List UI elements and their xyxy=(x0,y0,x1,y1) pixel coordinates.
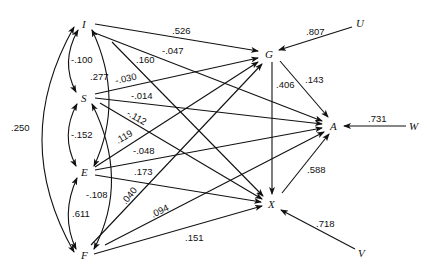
coef-I-X: .160 xyxy=(136,54,155,65)
coef-S-A: -.014 xyxy=(131,90,153,101)
coef-I-G: .526 xyxy=(172,25,191,36)
coef-V-X: .718 xyxy=(316,218,335,229)
coef-I-A: -.047 xyxy=(162,45,184,56)
path-diagram: I S E F G A X U W V -.100 -.152 .611 .27… xyxy=(0,0,427,267)
coef-U-G: .807 xyxy=(306,26,325,37)
coef-S-F: -.108 xyxy=(86,189,108,200)
coef-I-S: -.100 xyxy=(71,54,93,65)
coef-E-F: .611 xyxy=(72,208,90,219)
node-A: A xyxy=(329,120,337,132)
path-S-X xyxy=(100,103,262,199)
coef-I-F: .250 xyxy=(11,122,30,133)
coef-I-E: .277 xyxy=(90,71,109,82)
path-F-X xyxy=(94,206,262,254)
coef-G-X: .406 xyxy=(276,79,295,90)
coef-E-X: .173 xyxy=(134,166,153,177)
corr-I-E xyxy=(92,30,109,166)
node-U: U xyxy=(356,17,365,29)
node-F: F xyxy=(80,249,88,261)
node-X: X xyxy=(267,198,276,210)
coef-E-A: -.048 xyxy=(133,145,155,156)
node-W: W xyxy=(409,120,419,132)
coef-S-E: -.152 xyxy=(71,129,93,140)
node-G: G xyxy=(265,48,273,60)
path-V-X xyxy=(281,210,355,249)
coef-X-A: .588 xyxy=(307,164,326,175)
coef-F-X: .151 xyxy=(185,232,204,243)
coef-E-G: .119 xyxy=(114,127,135,145)
coef-F-G: .040 xyxy=(119,185,139,206)
path-F-G xyxy=(91,64,262,245)
coef-W-A: .731 xyxy=(368,113,387,124)
node-E: E xyxy=(80,166,88,178)
node-I: I xyxy=(81,18,87,30)
coef-G-A: .143 xyxy=(305,74,324,85)
coef-S-G: -.030 xyxy=(114,71,137,86)
corr-I-F xyxy=(42,27,74,252)
node-S: S xyxy=(81,92,87,104)
node-V: V xyxy=(358,247,366,259)
